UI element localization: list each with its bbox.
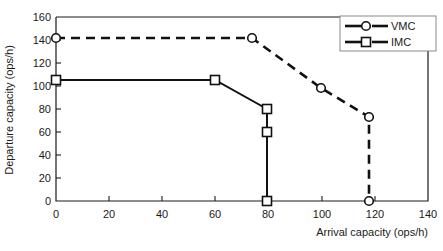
series-imc-line <box>56 80 267 201</box>
data-point-marker <box>317 84 326 93</box>
y-tick-marks <box>56 40 61 178</box>
y-tick-label: 120 <box>33 57 51 69</box>
x-tick-label: 80 <box>262 208 274 220</box>
capacity-curve-figure: Departure capacity (ops/h) 160 140 120 1… <box>0 0 443 251</box>
data-point-marker <box>263 105 272 114</box>
data-point-marker <box>52 76 61 85</box>
x-tick-label: 20 <box>103 208 115 220</box>
x-tick-label: 0 <box>53 208 59 220</box>
legend-item-label: VMC <box>391 20 416 32</box>
x-tick-label: 120 <box>366 208 384 220</box>
series-imc <box>52 76 272 206</box>
x-tick-marks <box>109 196 375 201</box>
y-tick-label: 140 <box>33 34 51 46</box>
series-vmc <box>52 34 374 206</box>
y-tick-label: 40 <box>39 149 51 161</box>
x-tick-label: 100 <box>313 208 331 220</box>
legend-item-label: IMC <box>391 36 411 48</box>
chart-legend[interactable]: VMC IMC <box>340 16 436 51</box>
y-axis-title: Departure capacity (ops/h) <box>3 45 15 175</box>
circle-marker-icon <box>362 22 371 31</box>
y-tick-label: 80 <box>39 103 51 115</box>
series-vmc-line <box>56 38 369 201</box>
legend-background <box>340 16 436 51</box>
y-tick-label: 60 <box>39 126 51 138</box>
y-tick-label: 20 <box>39 172 51 184</box>
data-point-marker <box>52 34 61 43</box>
x-tick-label: 140 <box>419 208 437 220</box>
data-point-marker <box>211 76 220 85</box>
y-tick-labels: 160 140 120 100 80 60 40 20 0 <box>33 11 51 207</box>
y-tick-label: 160 <box>33 11 51 23</box>
chart-canvas: Departure capacity (ops/h) 160 140 120 1… <box>0 0 443 251</box>
data-point-marker <box>365 197 374 206</box>
x-tick-label: 40 <box>156 208 168 220</box>
square-marker-icon <box>362 38 371 47</box>
x-axis-title: Arrival capacity (ops/h) <box>316 226 428 238</box>
y-tick-label: 100 <box>33 80 51 92</box>
x-tick-label: 60 <box>209 208 221 220</box>
data-point-marker <box>263 128 272 137</box>
data-point-marker <box>365 113 374 122</box>
data-point-marker <box>248 34 257 43</box>
x-tick-labels: 0 20 40 60 80 100 120 140 <box>53 208 437 220</box>
data-point-marker <box>263 197 272 206</box>
y-tick-label: 0 <box>45 195 51 207</box>
